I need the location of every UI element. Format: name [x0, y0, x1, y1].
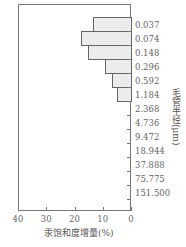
y-tick-label: 0.074 [135, 34, 159, 44]
y-tick-label: 151.500 [135, 188, 170, 198]
x-tick-mark [46, 207, 47, 211]
y-tick-mark [127, 199, 131, 200]
x-axis-title: 汞饱和度增量(%) [44, 226, 114, 239]
x-tick-label: 40 [13, 214, 24, 224]
x-tick-label: 30 [41, 214, 52, 224]
y-tick-label: 9.472 [135, 132, 159, 142]
y-tick-mark [127, 45, 131, 46]
y-tick-mark [127, 157, 131, 158]
x-tick-mark [75, 207, 76, 211]
x-tick-label: 0 [128, 214, 133, 224]
y-tick-label: 2.368 [135, 104, 159, 114]
bar [81, 31, 132, 46]
x-tick-label: 20 [69, 214, 80, 224]
bar [88, 45, 132, 60]
y-tick-mark [127, 101, 131, 102]
y-tick-label: 37.888 [135, 160, 165, 170]
y-tick-label: 1.184 [135, 90, 159, 100]
y-tick-mark [127, 115, 131, 116]
y-tick-label: 18.944 [135, 146, 165, 156]
y-tick-label: 4.736 [135, 118, 159, 128]
x-tick-label: 10 [97, 214, 108, 224]
y-tick-mark [127, 129, 131, 130]
y-tick-label: 0.296 [135, 62, 159, 72]
bar [112, 73, 132, 88]
y-tick-label: 75.775 [135, 174, 165, 184]
x-tick-mark [131, 207, 132, 211]
y-tick-mark [127, 171, 131, 172]
y-tick-label: 0.037 [135, 20, 159, 30]
y-tick-mark [127, 73, 131, 74]
y-tick-mark [127, 31, 131, 32]
y-tick-mark [127, 143, 131, 144]
y-tick-mark [127, 59, 131, 60]
y-tick-mark [127, 87, 131, 88]
x-tick-mark [18, 207, 19, 211]
x-tick-mark [103, 207, 104, 211]
bar [117, 87, 132, 102]
bar [105, 59, 132, 74]
y-tick-label: 0.148 [135, 48, 159, 58]
y-tick-mark [127, 185, 131, 186]
y-axis-title: 毛管半径(μm) [170, 88, 183, 145]
y-tick-label: 0.592 [135, 76, 159, 86]
bar [93, 17, 132, 32]
